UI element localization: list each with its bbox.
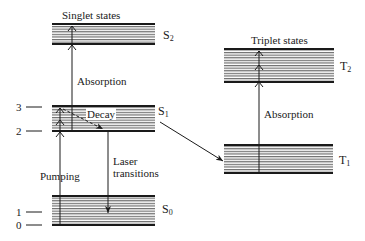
- energy-level-diagram: [0, 0, 365, 241]
- pumping-label: Pumping: [40, 170, 80, 182]
- level-number-2: 2: [16, 125, 22, 137]
- state-label-s1: S1: [158, 105, 169, 121]
- triplet-absorption-label: Absorption: [264, 108, 314, 120]
- decay-label: Decay: [86, 108, 116, 120]
- singlet-absorption-label: Absorption: [77, 75, 127, 87]
- state-label-s2: S2: [163, 29, 174, 45]
- singlet-states-title: Singlet states: [62, 9, 120, 21]
- laser-label-line1: Laser: [113, 155, 137, 167]
- band-s2: [52, 24, 155, 44]
- state-label-t2: T2: [340, 60, 351, 76]
- triplet-states-title: Triplet states: [251, 34, 308, 46]
- level-number-0: 0: [16, 219, 22, 231]
- laser-label-line2: transitions: [113, 167, 159, 179]
- band-s0: [52, 196, 155, 225]
- band-t2: [224, 49, 334, 82]
- state-label-s0: S0: [162, 203, 173, 219]
- intersystem-crossing-arrow: [160, 122, 223, 161]
- level-number-1: 1: [16, 206, 22, 218]
- state-label-t1: T1: [339, 154, 350, 170]
- band-t1: [224, 145, 333, 173]
- level-ticks: [26, 107, 42, 225]
- level-number-3: 3: [16, 101, 22, 113]
